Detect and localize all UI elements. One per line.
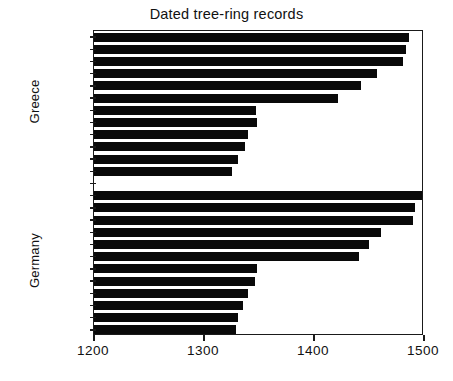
x-axis-tick — [423, 335, 425, 341]
bar — [94, 57, 403, 66]
y-axis-tick — [90, 73, 96, 75]
bar — [94, 228, 381, 237]
bar — [94, 313, 238, 322]
y-axis-tick — [90, 207, 96, 209]
chart-title: Dated tree-ring records — [0, 6, 453, 22]
bar — [94, 277, 255, 286]
y-axis-tick — [90, 329, 96, 331]
bar — [94, 289, 248, 298]
bar — [94, 45, 406, 54]
x-axis-tick-label: 1300 — [173, 343, 233, 358]
y-axis-tick — [90, 268, 96, 270]
group-label-germany: Germany — [27, 205, 42, 315]
bar — [94, 264, 257, 273]
bars-container — [94, 31, 424, 336]
y-axis-tick — [90, 61, 96, 63]
bar — [94, 130, 248, 139]
bar — [94, 118, 257, 127]
x-axis-tick-label: 1200 — [63, 343, 123, 358]
y-axis-tick — [90, 256, 96, 258]
bar — [94, 167, 232, 176]
bar — [94, 325, 236, 334]
y-axis-tick — [90, 244, 96, 246]
x-axis-tick — [93, 335, 95, 341]
y-axis-tick — [90, 195, 96, 197]
y-axis-tick — [90, 158, 96, 160]
bar — [94, 142, 245, 151]
x-axis-tick — [313, 335, 315, 341]
x-axis-tick — [203, 335, 205, 341]
y-axis-tick — [90, 293, 96, 295]
y-axis-tick — [90, 134, 96, 136]
bar — [94, 94, 338, 103]
y-axis-tick — [90, 183, 96, 185]
y-axis-tick — [90, 85, 96, 87]
group-label-greece: Greece — [27, 47, 42, 157]
bar — [94, 252, 359, 261]
bar — [94, 301, 243, 310]
bar — [94, 216, 413, 225]
bar — [94, 69, 377, 78]
y-axis-tick — [90, 49, 96, 51]
y-axis-tick — [90, 232, 96, 234]
y-axis-tick — [90, 110, 96, 112]
chart-page: Dated tree-ring records 1200130014001500… — [0, 0, 453, 381]
y-axis-tick — [90, 171, 96, 173]
y-axis-tick — [90, 317, 96, 319]
bar — [94, 81, 361, 90]
y-axis-tick — [90, 305, 96, 307]
bar — [94, 191, 422, 200]
bar — [94, 155, 238, 164]
y-axis-tick — [90, 280, 96, 282]
x-axis-tick-label: 1500 — [393, 343, 453, 358]
bar — [94, 33, 409, 42]
plot-area — [93, 30, 423, 335]
bar — [94, 106, 256, 115]
y-axis-tick — [90, 219, 96, 221]
x-axis-tick-label: 1400 — [283, 343, 343, 358]
bar — [94, 240, 369, 249]
y-axis-tick — [90, 122, 96, 124]
y-axis-tick — [90, 146, 96, 148]
y-axis-tick — [90, 97, 96, 99]
y-axis-tick — [90, 36, 96, 38]
bar — [94, 203, 415, 212]
